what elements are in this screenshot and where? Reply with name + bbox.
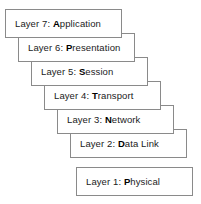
layer-prefix-4: Layer 4:	[54, 90, 92, 101]
layer-label-7: Layer 7: Application	[6, 19, 101, 29]
layer-box-1: Layer 1: Physical	[76, 167, 193, 196]
layer-prefix-3: Layer 3:	[67, 114, 105, 125]
layer-prefix-2: Layer 2:	[80, 138, 118, 149]
layer-label-4: Layer 4: Transport	[45, 91, 133, 101]
layer-box-7: Layer 7: Application	[5, 9, 122, 38]
layer-prefix-1: Layer 1:	[86, 176, 124, 187]
layer-initial-3: N	[105, 114, 112, 125]
layer-prefix-7: Layer 7:	[15, 18, 53, 29]
layer-prefix-5: Layer 5:	[41, 66, 79, 77]
layer-rest-3: etwork	[112, 114, 141, 125]
layer-rest-6: resentation	[72, 42, 120, 53]
layer-label-6: Layer 6: Presentation	[19, 43, 120, 53]
layer-label-2: Layer 2: Data Link	[71, 139, 159, 149]
layer-label-1: Layer 1: Physical	[77, 177, 160, 187]
layer-initial-2: D	[118, 138, 125, 149]
layer-rest-7: pplication	[60, 18, 101, 29]
layer-label-5: Layer 5: Session	[32, 67, 113, 77]
layer-prefix-6: Layer 6:	[28, 42, 66, 53]
osi-layer-diagram: Layer 7: Application Layer 6: Presentati…	[0, 0, 201, 204]
layer-label-3: Layer 3: Network	[58, 115, 140, 125]
layer-rest-5: ession	[85, 66, 113, 77]
layer-rest-2: ata Link	[125, 138, 159, 149]
layer-rest-1: hysical	[130, 176, 160, 187]
layer-rest-4: ransport	[98, 90, 134, 101]
layer-initial-7: A	[53, 18, 60, 29]
